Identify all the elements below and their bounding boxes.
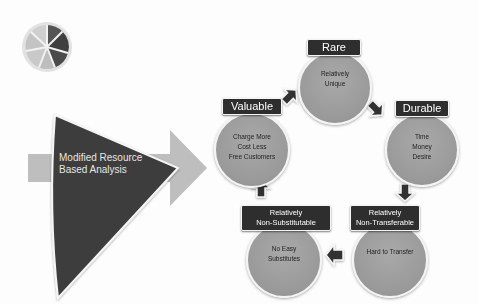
node-durable-label: Durable (395, 100, 449, 117)
node-durable-circle: Time Money Desire (385, 113, 459, 187)
node-rare-label: Rare (307, 39, 361, 56)
node-valuable-text-1: Charge More (229, 132, 276, 142)
node-non-substitutable-text-2: Substitutes (268, 254, 300, 264)
node-durable-text-2: Money (412, 142, 432, 152)
arrow-left-icon (326, 245, 343, 265)
node-rare-text-2: Unique (321, 79, 349, 89)
node-non-substitutable-label-2: Non-Substitutable (242, 218, 330, 228)
node-valuable-text-3: Free Customers (229, 152, 276, 162)
node-non-substitutable-text-1: No Easy (268, 244, 300, 254)
node-non-transferable-text-1: Hard to Transfer (367, 247, 414, 257)
node-non-substitutable-label-1: Relatively (242, 208, 330, 218)
node-non-transferable-circle: Hard to Transfer (352, 222, 428, 298)
node-rare-circle: Relatively Unique (298, 51, 372, 125)
node-durable-text-3: Desire (412, 152, 432, 162)
node-valuable-text-2: Cost Less (229, 142, 276, 152)
node-rare-text-1: Relatively (321, 69, 349, 79)
node-non-substitutable-label: Relatively Non-Substitutable (241, 205, 331, 231)
node-non-transferable-label-2: Non-Transferable (351, 218, 419, 228)
node-durable-text-1: Time (412, 132, 432, 142)
node-valuable-circle: Charge More Cost Less Free Customers (214, 112, 290, 188)
node-non-transferable-label-1: Relatively (351, 208, 419, 218)
node-valuable-label: Valuable (222, 98, 282, 115)
arrow-down-icon (396, 184, 414, 201)
node-non-transferable-label: Relatively Non-Transferable (350, 205, 420, 231)
node-non-substitutable-circle: No Easy Substitutes (246, 222, 322, 298)
